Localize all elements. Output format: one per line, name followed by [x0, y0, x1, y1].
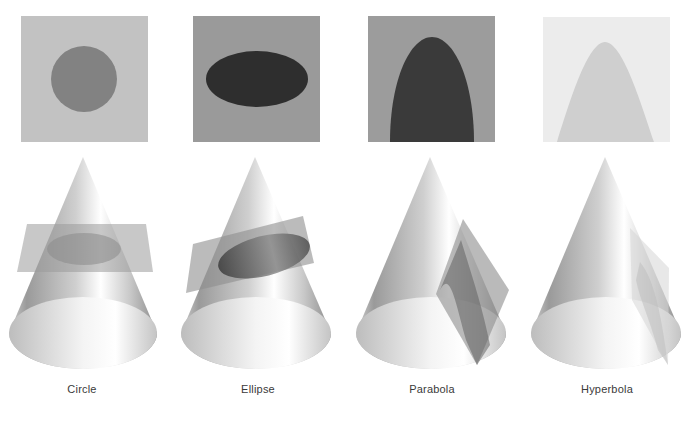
- conic-sections-figure: [0, 0, 683, 442]
- label-ellipse: Ellipse: [198, 383, 318, 395]
- label-circle: Circle: [22, 383, 142, 395]
- panel-circle: [21, 16, 148, 142]
- circle-shape: [51, 46, 117, 112]
- cone-parabola: [356, 157, 509, 369]
- section-curve: [47, 233, 121, 265]
- cone-circle: [9, 157, 157, 369]
- ellipse-shape: [206, 51, 308, 107]
- panel-parabola: [368, 16, 495, 142]
- panel-ellipse: [193, 16, 320, 142]
- cone-hyperbola: [531, 157, 681, 369]
- cone-ellipse: [181, 157, 331, 369]
- panel-hyperbola: [543, 17, 670, 142]
- label-parabola: Parabola: [372, 383, 492, 395]
- label-hyperbola: Hyperbola: [547, 383, 667, 395]
